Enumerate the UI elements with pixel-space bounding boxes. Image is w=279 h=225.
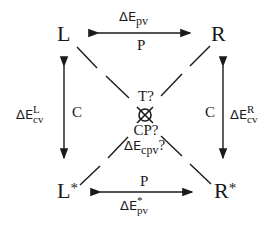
left-edge-energy-label: ΔELcv bbox=[16, 106, 44, 126]
bottom-edge-energy-label: ΔE*pv bbox=[120, 197, 148, 217]
top-edge-energy-label: ΔEpv bbox=[119, 9, 148, 25]
right-edge-energy-label: ΔERcv bbox=[230, 106, 258, 126]
crossed-circle-icon bbox=[137, 107, 153, 123]
top-edge-P-label: P bbox=[137, 38, 145, 53]
left-edge-C-label: C bbox=[72, 105, 82, 120]
node-L-star: L* bbox=[57, 180, 78, 202]
center-energy-label: ΔEcpv? bbox=[124, 138, 165, 154]
center-CP-label: CP? bbox=[126, 122, 166, 138]
bottom-edge-P-label: P bbox=[140, 174, 148, 189]
right-edge-C-label: C bbox=[205, 105, 215, 120]
node-L: L bbox=[57, 23, 70, 45]
node-R-star: R* bbox=[214, 180, 236, 202]
node-R: R bbox=[211, 23, 226, 45]
center-T-label: T? bbox=[133, 88, 159, 104]
